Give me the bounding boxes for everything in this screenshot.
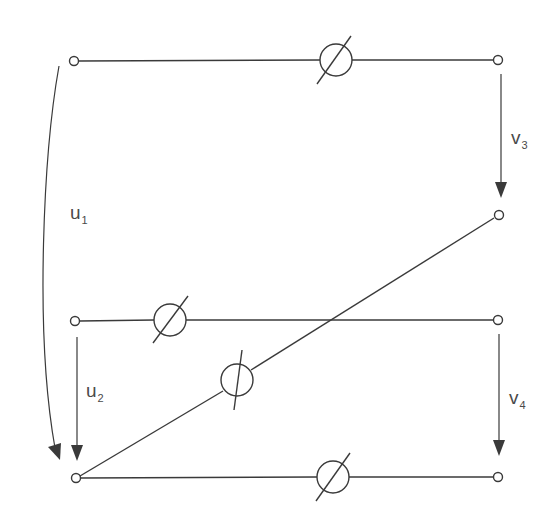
top-branch (79, 36, 493, 84)
label-v3: v3 (511, 128, 528, 151)
middle-branch (80, 296, 493, 343)
label-u2-sub: 2 (98, 392, 104, 404)
label-u2: u2 (86, 381, 104, 404)
terminal-middle-right (494, 316, 503, 325)
u1-arrow-icon (43, 66, 61, 460)
label-v4-main: v (509, 387, 519, 408)
terminal-top-right (494, 56, 503, 65)
label-v3-main: v (511, 127, 521, 148)
meter-middle-icon (153, 296, 188, 343)
label-v4: v4 (509, 388, 526, 411)
terminal-diag-right (495, 211, 504, 220)
meter-diagonal-icon (221, 350, 253, 410)
label-v3-sub: 3 (522, 139, 528, 151)
diagonal-branch (80, 218, 494, 476)
meter-top-icon (317, 36, 352, 84)
label-u1-main: u (70, 202, 81, 223)
circuit-diagram (0, 0, 551, 514)
label-u1: u1 (70, 203, 88, 226)
bottom-branch (81, 453, 493, 501)
v3-arrow-icon (495, 74, 507, 198)
v4-arrow-icon (493, 334, 505, 456)
u2-arrow-icon (71, 337, 83, 461)
terminal-bottom-right (494, 473, 503, 482)
terminal-top-left (70, 57, 79, 66)
terminal-middle-left (71, 317, 80, 326)
label-u2-main: u (86, 380, 97, 401)
terminal-bottom-left (72, 474, 81, 483)
label-u1-sub: 1 (82, 214, 88, 226)
label-v4-sub: 4 (520, 399, 526, 411)
meter-bottom-icon (316, 453, 350, 501)
